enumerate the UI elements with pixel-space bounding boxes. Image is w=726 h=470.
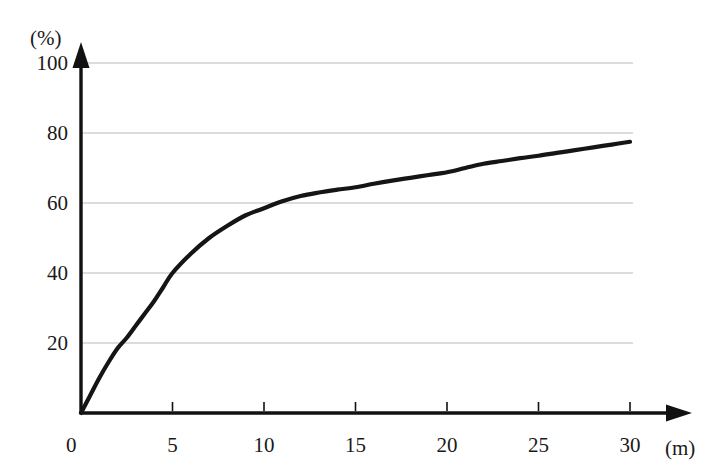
x-tick-label-20: 20 [437,433,458,457]
line-chart: 20406080100 51015202530 (%) (m) 0 [0,0,726,470]
y-axis-unit-label: (%) [30,26,61,50]
x-axis-unit-label: (m) [665,436,695,460]
origin-tick-label: 0 [66,433,77,457]
y-tick-label-20: 20 [47,331,68,355]
x-tick-label-30: 30 [620,433,641,457]
y-tick-label-80: 80 [47,121,68,145]
x-tick-label-5: 5 [167,433,178,457]
x-tick-label-25: 25 [528,433,549,457]
chart-container: 20406080100 51015202530 (%) (m) 0 [0,0,726,470]
y-tick-label-100: 100 [37,51,69,75]
y-tick-label-60: 60 [47,191,68,215]
chart-background [0,0,726,470]
y-tick-label-40: 40 [47,261,68,285]
x-tick-label-10: 10 [254,433,275,457]
x-tick-label-15: 15 [345,433,366,457]
